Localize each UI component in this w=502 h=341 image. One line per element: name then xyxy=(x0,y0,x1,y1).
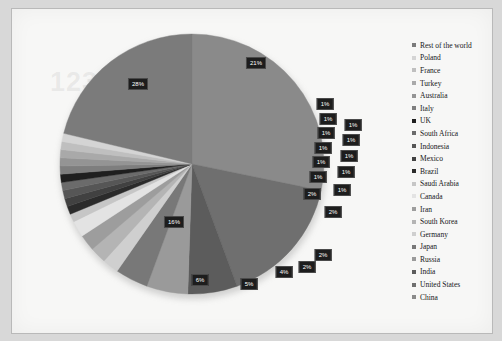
legend-item-label: Italy xyxy=(420,104,434,113)
pie-slice-label: 2% xyxy=(325,206,342,218)
pie-slice-label: 1% xyxy=(315,142,332,154)
legend-swatch-icon xyxy=(412,43,416,47)
legend-swatch-icon xyxy=(412,220,416,224)
pie-slice-label: 1% xyxy=(313,156,330,168)
legend-item[interactable]: Turkey xyxy=(412,77,488,90)
legend-item-label: Canada xyxy=(420,192,443,201)
legend-swatch-icon xyxy=(412,81,416,85)
legend-item-label: Indonesia xyxy=(420,142,449,151)
legend-item[interactable]: Mexico xyxy=(412,152,488,165)
pie-slice-label: 1% xyxy=(310,171,327,183)
legend-swatch-icon xyxy=(412,182,416,186)
legend-swatch-icon xyxy=(412,106,416,110)
legend-item-label: South Korea xyxy=(420,217,458,226)
legend-swatch-icon xyxy=(412,270,416,274)
legend-item[interactable]: United States xyxy=(412,278,488,291)
legend-item[interactable]: Canada xyxy=(412,190,488,203)
pie-slices xyxy=(58,31,328,301)
pie-slice-label: 28% xyxy=(128,78,148,90)
pie-slice-label: 2% xyxy=(315,249,332,261)
legend-swatch-icon xyxy=(412,94,416,98)
pie-slice-label: 5% xyxy=(241,278,258,290)
legend-item-label: Poland xyxy=(420,53,441,62)
legend-swatch-icon xyxy=(412,295,416,299)
legend-item-label: UK xyxy=(420,116,431,125)
legend-swatch-icon xyxy=(412,68,416,72)
legend-item-label: Australia xyxy=(420,91,448,100)
legend-swatch-icon xyxy=(412,169,416,173)
pie-slice-label: 2% xyxy=(299,261,316,273)
legend-item-label: Japan xyxy=(420,242,437,251)
pie-slice-label: 1% xyxy=(320,113,337,125)
legend-swatch-icon xyxy=(412,131,416,135)
legend-item[interactable]: Australia xyxy=(412,89,488,102)
chart-legend: Rest of the worldPolandFranceTurkeyAustr… xyxy=(412,39,488,303)
pie-slice-label: 1% xyxy=(317,98,334,110)
legend-item[interactable]: South Korea xyxy=(412,215,488,228)
pie-slice-label: 6% xyxy=(192,274,209,286)
pie-slice-label: 1% xyxy=(341,150,358,162)
legend-item-label: United States xyxy=(420,280,460,289)
legend-item-label: Turkey xyxy=(420,79,441,88)
legend-swatch-icon xyxy=(412,232,416,236)
legend-swatch-icon xyxy=(412,119,416,123)
legend-item[interactable]: Poland xyxy=(412,52,488,65)
legend-item-label: India xyxy=(420,267,435,276)
legend-item[interactable]: South Africa xyxy=(412,127,488,140)
legend-item[interactable]: Rest of the world xyxy=(412,39,488,52)
legend-item[interactable]: Indonesia xyxy=(412,140,488,153)
legend-item-label: France xyxy=(420,66,440,75)
pie-slice-label: 1% xyxy=(345,119,362,131)
legend-item-label: South Africa xyxy=(420,129,458,138)
legend-item[interactable]: Russia xyxy=(412,253,488,266)
legend-swatch-icon xyxy=(412,245,416,249)
legend-item-label: China xyxy=(420,293,438,302)
pie-slice-label: 4% xyxy=(276,266,293,278)
chart-panel: 123RF 28%16%6%5%4%2%2%2%2%1%1%1%1%1%1%1%… xyxy=(11,8,493,334)
pie-slice-label: 1% xyxy=(343,134,360,146)
legend-item-label: Russia xyxy=(420,255,440,264)
pie-slice-label: 21% xyxy=(246,57,266,69)
legend-item-label: Iran xyxy=(420,205,432,214)
legend-item[interactable]: France xyxy=(412,64,488,77)
legend-swatch-icon xyxy=(412,283,416,287)
legend-item[interactable]: China xyxy=(412,291,488,304)
legend-swatch-icon xyxy=(412,56,416,60)
legend-item-label: Germany xyxy=(420,230,448,239)
legend-item-label: Brazil xyxy=(420,167,438,176)
pie-slice-label: 1% xyxy=(338,166,355,178)
legend-item[interactable]: Japan xyxy=(412,241,488,254)
pie-slice-label: 2% xyxy=(304,188,321,200)
legend-item[interactable]: Brazil xyxy=(412,165,488,178)
pie-slice-label: 1% xyxy=(334,184,351,196)
screenshot-root: 123RF 28%16%6%5%4%2%2%2%2%1%1%1%1%1%1%1%… xyxy=(0,0,502,341)
legend-item[interactable]: Saudi Arabia xyxy=(412,178,488,191)
legend-item[interactable]: India xyxy=(412,266,488,279)
pie-graphic xyxy=(58,31,328,301)
pie-slice-label: 16% xyxy=(164,216,184,228)
legend-item-label: Rest of the world xyxy=(420,41,472,50)
legend-item[interactable]: Italy xyxy=(412,102,488,115)
legend-swatch-icon xyxy=(412,144,416,148)
pie-slice-label: 1% xyxy=(318,127,335,139)
legend-swatch-icon xyxy=(412,194,416,198)
legend-item[interactable]: UK xyxy=(412,115,488,128)
legend-item[interactable]: Germany xyxy=(412,228,488,241)
legend-item-label: Mexico xyxy=(420,154,443,163)
legend-swatch-icon xyxy=(412,157,416,161)
legend-item-label: Saudi Arabia xyxy=(420,179,459,188)
legend-swatch-icon xyxy=(412,207,416,211)
legend-swatch-icon xyxy=(412,257,416,261)
legend-item[interactable]: Iran xyxy=(412,203,488,216)
